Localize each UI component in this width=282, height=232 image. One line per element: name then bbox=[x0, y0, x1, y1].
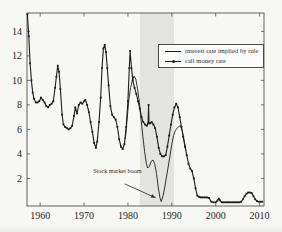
marker-line-sample-icon bbox=[165, 58, 181, 65]
data-marker bbox=[230, 201, 232, 203]
data-marker bbox=[174, 106, 176, 108]
data-marker bbox=[81, 103, 83, 105]
data-marker bbox=[237, 201, 239, 203]
figure: 1960197019801990200020102468101214Stock … bbox=[0, 0, 282, 232]
annotation-stock-market-boom: Stock market boom bbox=[93, 167, 142, 174]
data-marker bbox=[40, 97, 42, 99]
data-marker bbox=[235, 201, 237, 203]
data-marker bbox=[113, 116, 115, 118]
data-marker bbox=[135, 93, 137, 95]
data-marker bbox=[170, 124, 172, 126]
data-marker bbox=[168, 135, 170, 137]
data-marker bbox=[167, 146, 169, 148]
data-marker bbox=[30, 79, 32, 81]
data-marker bbox=[58, 71, 60, 73]
data-marker bbox=[175, 103, 177, 105]
data-marker bbox=[179, 116, 181, 118]
data-marker bbox=[208, 197, 210, 199]
data-marker bbox=[158, 147, 160, 149]
data-marker bbox=[261, 201, 263, 203]
data-marker bbox=[161, 155, 163, 157]
data-marker bbox=[260, 201, 262, 203]
data-marker bbox=[61, 114, 63, 116]
data-marker bbox=[122, 148, 124, 150]
data-marker bbox=[195, 187, 197, 189]
data-marker bbox=[44, 102, 46, 104]
y-tick-label: 6 bbox=[17, 124, 22, 135]
data-marker bbox=[186, 154, 188, 156]
data-marker bbox=[38, 100, 40, 102]
data-marker bbox=[66, 127, 68, 129]
data-marker bbox=[232, 201, 234, 203]
data-marker bbox=[154, 127, 156, 129]
data-marker bbox=[37, 102, 39, 104]
data-marker bbox=[71, 125, 73, 127]
data-marker bbox=[86, 104, 88, 106]
data-marker bbox=[198, 196, 200, 198]
data-marker bbox=[240, 201, 242, 203]
data-marker bbox=[104, 44, 106, 46]
data-marker bbox=[106, 67, 108, 69]
data-marker bbox=[128, 67, 130, 69]
legend-item: interest rate implied by rule bbox=[165, 47, 263, 56]
data-marker bbox=[90, 121, 92, 123]
data-marker bbox=[181, 126, 183, 128]
data-marker bbox=[93, 142, 95, 144]
data-marker bbox=[28, 35, 30, 37]
data-marker bbox=[131, 67, 133, 69]
data-marker bbox=[191, 170, 193, 172]
data-marker bbox=[244, 195, 246, 197]
y-tick-label: 4 bbox=[17, 148, 22, 159]
data-marker bbox=[153, 124, 155, 126]
data-marker bbox=[73, 115, 75, 117]
data-marker bbox=[151, 121, 153, 123]
data-marker bbox=[47, 106, 49, 108]
data-marker bbox=[253, 195, 255, 197]
x-tick-label: 1970 bbox=[74, 210, 94, 221]
data-marker bbox=[52, 100, 54, 102]
data-marker bbox=[217, 200, 219, 202]
data-marker bbox=[118, 138, 120, 140]
data-marker bbox=[42, 99, 44, 101]
data-marker bbox=[172, 114, 174, 116]
x-tick-label: 1960 bbox=[30, 210, 50, 221]
data-marker bbox=[160, 153, 162, 155]
data-marker bbox=[200, 197, 202, 199]
data-marker bbox=[184, 146, 186, 148]
data-marker bbox=[139, 108, 141, 110]
chart-canvas: 1960197019801990200020102468101214Stock … bbox=[0, 0, 282, 232]
legend: interest rate implied by rule call money… bbox=[158, 44, 264, 68]
x-tick-label: 2000 bbox=[206, 210, 226, 221]
data-marker bbox=[254, 198, 256, 200]
data-marker bbox=[239, 201, 241, 203]
data-marker bbox=[206, 197, 208, 199]
data-marker bbox=[182, 136, 184, 138]
y-tick-label: 10 bbox=[12, 75, 22, 86]
data-marker bbox=[202, 197, 204, 199]
data-marker bbox=[189, 168, 191, 170]
data-marker bbox=[95, 147, 97, 149]
data-marker bbox=[196, 195, 198, 197]
x-tick-label: 1990 bbox=[162, 210, 182, 221]
data-marker bbox=[226, 201, 228, 203]
data-marker bbox=[141, 116, 143, 118]
data-marker bbox=[218, 198, 220, 200]
data-marker bbox=[125, 126, 127, 128]
data-marker bbox=[210, 201, 212, 203]
legend-label: call money rate bbox=[185, 58, 226, 64]
data-marker bbox=[249, 192, 251, 194]
data-marker bbox=[129, 50, 131, 52]
data-marker bbox=[204, 197, 206, 199]
data-marker bbox=[84, 99, 86, 101]
data-marker bbox=[258, 201, 260, 203]
x-tick-label: 1980 bbox=[118, 210, 138, 221]
data-marker bbox=[148, 104, 150, 106]
legend-label: interest rate implied by rule bbox=[185, 48, 259, 54]
data-marker bbox=[247, 192, 249, 194]
data-marker bbox=[142, 121, 144, 123]
data-marker bbox=[35, 102, 37, 104]
data-marker bbox=[64, 126, 66, 128]
y-tick-label: 12 bbox=[12, 50, 22, 61]
data-marker bbox=[117, 126, 119, 128]
data-marker bbox=[102, 48, 104, 50]
